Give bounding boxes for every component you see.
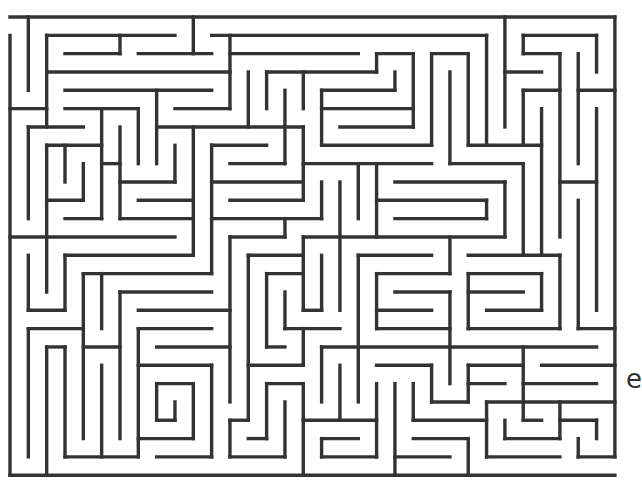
cropped-edge-letter: e xyxy=(626,366,642,392)
maze-walls xyxy=(10,17,615,475)
